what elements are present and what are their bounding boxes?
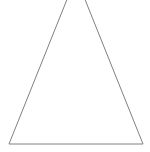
drawing-canvas: [0, 0, 150, 152]
triangle-figure: [0, 0, 150, 152]
canvas-background: [0, 0, 150, 152]
